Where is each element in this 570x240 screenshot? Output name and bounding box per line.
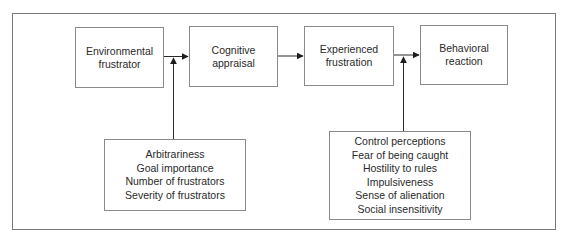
moderator-item: Hostility to rules: [363, 162, 437, 176]
moderator-item: Sense of alienation: [355, 189, 444, 203]
stage-label-line: frustrator: [98, 58, 140, 71]
stage-label-line: frustration: [326, 56, 373, 69]
stage-label-line: Environmental: [86, 45, 153, 58]
moderator-item: Impulsiveness: [367, 176, 434, 190]
stage-label-line: reaction: [445, 55, 482, 68]
stage-label-line: Experienced: [320, 43, 378, 56]
stage-label-line: Behavioral: [439, 42, 489, 55]
stage-label-line: appraisal: [212, 57, 255, 70]
moderator-box-reaction: Control perceptions Fear of being caught…: [329, 131, 471, 220]
moderator-item: Number of frustrators: [125, 175, 224, 189]
moderator-box-appraisal: Arbitrariness Goal importance Number of …: [104, 139, 246, 211]
moderator-item: Fear of being caught: [352, 149, 448, 163]
moderator-item: Control perceptions: [354, 135, 445, 149]
moderator-item: Goal importance: [136, 162, 213, 176]
moderator-item: Arbitrariness: [146, 148, 205, 162]
stage-cognitive-appraisal: Cognitive appraisal: [189, 26, 278, 87]
stage-experienced-frustration: Experienced frustration: [304, 26, 394, 86]
moderator-item: Severity of frustrators: [125, 189, 225, 203]
moderator-item: Social insensitivity: [357, 203, 442, 217]
stage-behavioral-reaction: Behavioral reaction: [420, 25, 508, 85]
stage-label-line: Cognitive: [212, 44, 256, 57]
stage-environmental-frustrator: Environmental frustrator: [75, 27, 164, 88]
